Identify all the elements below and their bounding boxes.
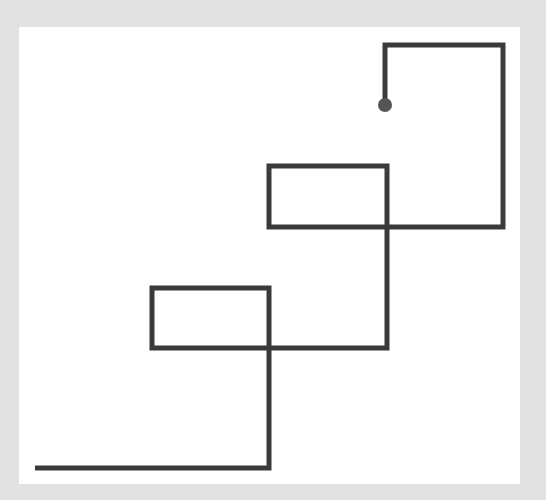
maze-path-line [35,45,503,468]
path-diagram [0,0,546,500]
path-end-dot [378,98,392,112]
